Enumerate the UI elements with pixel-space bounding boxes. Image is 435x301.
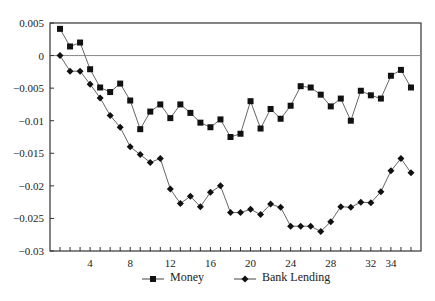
data-point	[258, 126, 264, 132]
diamond-marker-icon	[232, 273, 258, 283]
x-tick-label: 32	[365, 257, 376, 269]
data-point	[277, 204, 284, 211]
data-point	[67, 68, 74, 75]
data-point	[278, 116, 284, 122]
y-tick-label: −0.005	[13, 82, 44, 94]
x-tick-label: 16	[205, 257, 217, 269]
data-point	[107, 89, 113, 95]
data-point	[147, 109, 153, 115]
legend-label-bank-lending: Bank Lending	[262, 270, 330, 285]
data-point	[307, 223, 314, 230]
x-tick-label: 24	[285, 257, 297, 269]
data-point	[237, 209, 244, 216]
y-tick-label: 0.005	[19, 17, 44, 29]
data-point	[57, 52, 64, 59]
data-point	[408, 84, 414, 90]
data-point	[87, 66, 93, 72]
y-tick-label: −0.025	[13, 212, 44, 224]
square-marker-icon	[140, 273, 166, 283]
data-point	[207, 124, 213, 130]
data-point	[247, 206, 254, 213]
data-point	[298, 83, 304, 89]
y-axis: 0.0050−0.005−0.01−0.015−0.02−0.025−0.03	[13, 17, 54, 257]
data-point	[407, 169, 414, 176]
legend-label-money: Money	[170, 270, 204, 285]
data-point	[197, 120, 203, 126]
data-point	[357, 199, 364, 206]
data-point	[347, 204, 354, 211]
series-bank-lending	[57, 52, 415, 235]
data-point	[157, 101, 163, 107]
data-point	[57, 26, 63, 32]
data-point	[368, 92, 374, 98]
y-tick-label: −0.015	[13, 147, 44, 159]
y-tick-label: −0.02	[19, 180, 44, 192]
data-point	[117, 81, 123, 87]
x-tick-label: 12	[165, 257, 176, 269]
legend: Money Bank Lending	[140, 270, 330, 285]
legend-item-bank-lending: Bank Lending	[232, 270, 330, 285]
data-point	[227, 134, 233, 140]
data-point	[398, 67, 404, 73]
data-point	[137, 126, 143, 132]
data-point	[348, 118, 354, 124]
data-point	[177, 101, 183, 107]
data-point	[127, 98, 133, 104]
series-money	[57, 26, 414, 140]
data-point	[378, 96, 384, 102]
y-tick-label: −0.01	[19, 115, 44, 127]
data-point	[217, 116, 223, 122]
plot-frame	[50, 23, 421, 251]
data-point	[187, 110, 193, 116]
data-point	[308, 84, 314, 90]
data-point	[297, 223, 304, 230]
data-point	[77, 40, 83, 46]
data-point	[238, 131, 244, 137]
data-point	[217, 182, 224, 189]
data-point	[268, 106, 274, 112]
y-tick-label: 0	[39, 50, 45, 62]
data-point	[288, 103, 294, 109]
data-point	[177, 200, 184, 207]
data-point	[167, 186, 174, 193]
data-point	[358, 88, 364, 94]
data-point	[328, 103, 334, 109]
data-point	[248, 98, 254, 104]
data-point	[338, 96, 344, 102]
data-point	[157, 155, 164, 162]
data-point	[97, 84, 103, 90]
x-tick-label: 34	[385, 257, 397, 269]
y-tick-label: −0.03	[19, 245, 45, 257]
x-tick-label: 4	[87, 257, 93, 269]
x-tick-label: 8	[127, 257, 133, 269]
x-axis: 4812162024283234	[60, 247, 411, 269]
data-point	[167, 115, 173, 121]
x-tick-label: 20	[245, 257, 257, 269]
line-chart: 0.0050−0.005−0.01−0.015−0.02−0.025−0.03 …	[0, 0, 435, 301]
data-point	[287, 223, 294, 230]
data-point	[67, 43, 73, 49]
data-point	[388, 73, 394, 79]
legend-item-money: Money	[140, 270, 204, 285]
x-tick-label: 28	[325, 257, 337, 269]
data-point	[227, 209, 234, 216]
data-point	[97, 94, 104, 101]
data-point	[207, 189, 214, 196]
data-point	[337, 203, 344, 210]
data-point	[318, 92, 324, 98]
